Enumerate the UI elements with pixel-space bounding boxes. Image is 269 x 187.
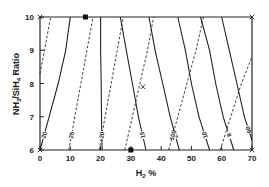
square-marker <box>83 15 88 20</box>
y-tick-label: 6 <box>30 146 35 155</box>
y-axis-title: NH3/SiH4 Ratio <box>11 52 22 115</box>
x-tick-label: 10 <box>66 154 75 163</box>
x-tick-label: 20 <box>96 154 105 163</box>
x-tick-label: 40 <box>157 154 166 163</box>
chart: 20251524108602520100 010203040506070 678… <box>0 0 269 187</box>
x-tick-label: 60 <box>217 154 226 163</box>
x-tick-label: 70 <box>248 154 257 163</box>
y-tick-label: 9 <box>30 46 35 55</box>
square-marker <box>128 148 133 153</box>
x-tick-label: 0 <box>38 154 43 163</box>
y-tick-label: 8 <box>30 80 35 89</box>
y-tick-label: 7 <box>30 113 35 122</box>
x-tick-label: 30 <box>126 154 135 163</box>
y-tick-label: 10 <box>25 13 34 22</box>
x-tick-label: 50 <box>187 154 196 163</box>
x-axis-title: H2 % <box>136 168 156 179</box>
